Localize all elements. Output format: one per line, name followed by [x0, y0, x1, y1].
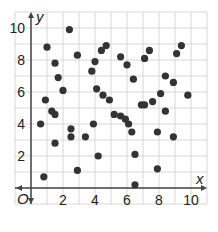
data-point	[59, 87, 66, 94]
x-axis-label: x	[195, 170, 204, 187]
data-point	[90, 120, 97, 127]
y-axis-arrow-icon	[28, 12, 34, 18]
y-axis-label: y	[35, 8, 45, 25]
data-point	[117, 53, 124, 60]
scatter-plot: 246810246810 x y O	[0, 0, 218, 232]
data-point	[146, 47, 153, 54]
data-point	[131, 181, 138, 188]
x-tick-label: 10	[183, 192, 199, 208]
data-point	[106, 96, 113, 103]
y-tick-label: 2	[17, 148, 25, 164]
data-point	[43, 44, 50, 51]
data-point	[149, 98, 156, 105]
data-point	[131, 151, 138, 158]
data-point	[99, 92, 106, 99]
data-point	[95, 152, 102, 159]
data-point	[40, 173, 47, 180]
data-point	[170, 79, 177, 86]
y-tick-label: 8	[17, 52, 25, 68]
data-point	[111, 111, 118, 118]
data-points	[37, 26, 191, 188]
data-point	[74, 52, 81, 59]
data-point	[51, 111, 58, 118]
data-point	[141, 101, 148, 108]
data-point	[55, 74, 62, 81]
data-point	[98, 47, 105, 54]
x-tick-label: 6	[123, 192, 131, 208]
data-point	[37, 120, 44, 127]
data-point	[51, 140, 58, 147]
data-point	[51, 60, 58, 67]
data-point	[170, 133, 177, 140]
x-tick-label: 2	[59, 192, 67, 208]
data-point	[66, 26, 73, 33]
data-point	[125, 120, 132, 127]
data-point	[141, 55, 148, 62]
data-point	[154, 165, 161, 172]
data-point	[67, 133, 74, 140]
data-point	[91, 58, 98, 65]
data-point	[130, 76, 137, 83]
data-point	[67, 125, 74, 132]
y-tick-label: 10	[9, 20, 25, 36]
data-point	[42, 96, 49, 103]
data-point	[93, 85, 100, 92]
data-point	[162, 108, 169, 115]
data-point	[157, 90, 164, 97]
y-tick-label: 6	[17, 84, 25, 100]
y-tick-label: 4	[17, 116, 25, 132]
data-point	[88, 68, 95, 75]
data-point	[154, 128, 161, 135]
data-point	[178, 42, 185, 49]
data-point	[74, 167, 81, 174]
data-point	[162, 72, 169, 79]
x-tick-label: 8	[155, 192, 163, 208]
x-tick-label: 4	[91, 192, 99, 208]
data-point	[128, 128, 135, 135]
origin-label: O	[17, 190, 29, 207]
data-point	[82, 133, 89, 140]
data-point	[184, 92, 191, 99]
data-point	[123, 61, 130, 68]
y-axis-arrow-down-icon	[28, 198, 34, 204]
data-point	[173, 50, 180, 57]
